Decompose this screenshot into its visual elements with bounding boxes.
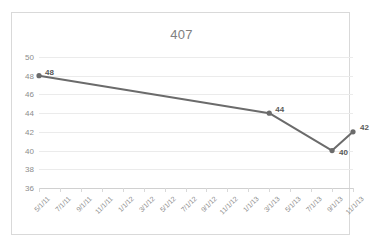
- x-axis-tick-label: 9/1/13: [326, 195, 344, 213]
- y-axis-tick-label: 40: [25, 146, 34, 155]
- x-axis-tick: [39, 188, 40, 192]
- x-axis-line: [39, 188, 353, 189]
- x-axis-tick: [311, 188, 312, 192]
- data-point-marker: [329, 148, 334, 153]
- x-axis-tick-label: 11/1/12: [219, 195, 240, 216]
- x-axis-tick-label: 11/1/13: [344, 195, 365, 216]
- y-axis-tick-label: 36: [25, 184, 34, 193]
- line-series: [39, 57, 353, 188]
- y-axis-tick-label: 38: [25, 165, 34, 174]
- x-axis-tick: [269, 188, 270, 192]
- y-axis-tick-label: 44: [25, 109, 34, 118]
- x-axis-tick: [186, 188, 187, 192]
- x-axis-tick-label: 5/1/11: [33, 195, 51, 213]
- x-axis-tick: [248, 188, 249, 192]
- x-axis-tick-label: 7/1/11: [54, 195, 72, 213]
- x-axis-tick-label: 3/1/12: [137, 195, 155, 213]
- x-axis-tick-label: 7/1/13: [305, 195, 323, 213]
- x-axis-tick: [165, 188, 166, 192]
- x-axis-tick-label: 9/1/12: [200, 195, 218, 213]
- x-axis-tick: [290, 188, 291, 192]
- y-axis-tick-label: 50: [25, 53, 34, 62]
- data-point-label: 40: [339, 148, 348, 157]
- x-axis-tick-label: 11/1/11: [94, 195, 114, 215]
- x-axis-tick-label: 1/1/13: [242, 195, 260, 213]
- x-axis-tick: [227, 188, 228, 192]
- series-line: [39, 76, 353, 151]
- x-axis-tick-label: 5/1/13: [284, 195, 302, 213]
- x-axis-tick-label: 9/1/11: [75, 195, 93, 213]
- x-axis-tick-label: 7/1/12: [179, 195, 197, 213]
- x-axis-tick: [144, 188, 145, 192]
- x-axis-tick: [60, 188, 61, 192]
- chart-container: 407 5048464442403836 48444042 5/1/117/1/…: [11, 12, 350, 235]
- y-axis-tick-label: 46: [25, 90, 34, 99]
- x-axis-tick: [81, 188, 82, 192]
- y-axis-tick-label: 42: [25, 127, 34, 136]
- data-point-label: 42: [360, 123, 369, 132]
- data-point-marker: [267, 111, 272, 116]
- data-point-marker: [350, 129, 355, 134]
- plot-area: 5048464442403836 48444042: [39, 57, 353, 188]
- x-axis-tick-label: 1/1/12: [116, 195, 134, 213]
- x-axis-tick: [123, 188, 124, 192]
- data-point-label: 44: [275, 105, 284, 114]
- x-axis-tick: [332, 188, 333, 192]
- data-point-marker: [36, 73, 41, 78]
- x-axis-tick: [102, 188, 103, 192]
- y-axis-tick-label: 48: [25, 71, 34, 80]
- x-axis-tick: [206, 188, 207, 192]
- x-axis-tick: [353, 188, 354, 192]
- x-axis-tick-label: 5/1/12: [158, 195, 176, 213]
- x-axis-tick-label: 3/1/13: [263, 195, 281, 213]
- data-point-label: 48: [45, 68, 54, 77]
- chart-title: 407: [12, 27, 351, 42]
